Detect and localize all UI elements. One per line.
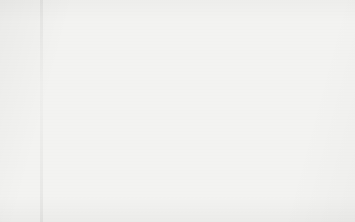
callout-label-italy: Italy 4%: [69, 180, 106, 191]
leader-line-france: [113, 95, 146, 96]
slice-label-uk: UK12%: [254, 167, 275, 189]
callout-label-switzerland: Switzerland 3%: [33, 149, 105, 160]
slice-label-pct-uk: 12%: [254, 178, 275, 189]
leader-line-spain: [116, 110, 147, 125]
slice-label-pct-others: 15%: [196, 58, 228, 69]
leader-line-the-netherland: [112, 66, 152, 83]
slice-label-pct-germany: 45%: [264, 97, 307, 108]
pie-slice-group: [144, 21, 336, 213]
pie-chart-figure: Germany45%UK12%USA10%Italy 4%Switzerland…: [0, 0, 355, 222]
callout-label-france: France 2%: [55, 89, 106, 100]
pie-chart-canvas: [0, 0, 355, 222]
slice-label-germany: Germany45%: [264, 86, 307, 108]
callout-label-the-netherland: The Netherland 2%: [12, 60, 102, 71]
slice-label-usa: USA10%: [193, 152, 215, 174]
leader-line-austria: [110, 40, 162, 70]
slice-label-others: Others15%: [196, 47, 228, 69]
leader-line-canada: [111, 14, 172, 59]
slice-label-pct-usa: 10%: [193, 163, 215, 174]
callout-label-spain: Spain 3%: [61, 120, 106, 131]
callout-label-austria: Austria 2%: [56, 34, 107, 45]
callout-label-canada: Canada 2%: [52, 7, 107, 18]
